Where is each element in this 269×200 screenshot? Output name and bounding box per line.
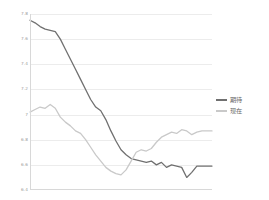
y-axis-tick-label: 6.8	[2, 138, 28, 142]
legend-label: 现在	[230, 108, 242, 114]
y-axis-tick-label: 7.8	[2, 12, 28, 16]
series-line	[30, 105, 212, 175]
legend-swatch-icon	[216, 99, 227, 101]
y-axis-line	[30, 14, 31, 190]
series-layer	[30, 14, 212, 190]
y-axis-tick-label: 7.6	[2, 37, 28, 41]
y-axis-tick-label: 7.4	[2, 62, 28, 66]
legend-item[interactable]: 期待	[216, 95, 268, 105]
y-axis-tick-label: 6.6	[2, 163, 28, 167]
x-axis-line	[30, 189, 212, 190]
y-axis-tick-labels: 7.87.67.47.276.86.66.4	[0, 14, 28, 190]
series-line	[30, 20, 212, 177]
chart-legend: 期待现在	[216, 95, 268, 117]
line-chart: 7.87.67.47.276.86.66.4 期待现在	[0, 0, 269, 200]
y-axis-tick-label: 7.2	[2, 87, 28, 91]
y-axis-tick-label: 7	[2, 112, 28, 116]
y-axis-tick-label: 6.4	[2, 188, 28, 192]
legend-label: 期待	[230, 97, 242, 103]
legend-item[interactable]: 现在	[216, 106, 268, 116]
legend-swatch-icon	[216, 110, 227, 112]
plot-area	[30, 14, 212, 190]
